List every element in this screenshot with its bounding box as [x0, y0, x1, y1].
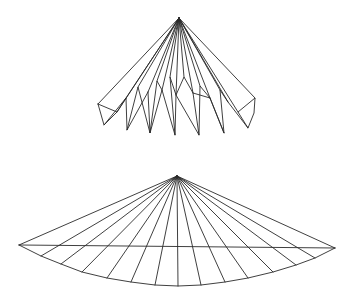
fold-ray: [148, 18, 179, 92]
fan-rib: [177, 176, 296, 265]
fold-ray: [179, 18, 210, 98]
fold-ray: [98, 18, 179, 104]
fan-rib: [177, 176, 335, 248]
fan-rib: [177, 176, 225, 282]
fan-rib: [131, 176, 177, 282]
fan-rib: [61, 176, 177, 264]
fan-rim-arc: [19, 245, 335, 286]
fan-rib: [177, 176, 248, 278]
flat-fan-drawing: [19, 176, 335, 286]
fan-rib: [177, 176, 178, 286]
folded-fan-drawing: [98, 18, 255, 135]
fan-rib: [177, 176, 201, 285]
fold-edge: [127, 92, 148, 130]
fan-rib: [41, 176, 177, 256]
fan-rib: [177, 176, 315, 258]
fold-ray: [179, 18, 228, 102]
fold-edge: [117, 98, 126, 112]
fold-ray: [179, 18, 255, 98]
diagram-canvas: [0, 0, 351, 295]
fold-edge: [210, 98, 224, 133]
fold-edge: [98, 104, 117, 125]
fan-chord: [19, 245, 335, 248]
fold-edge: [199, 86, 255, 135]
